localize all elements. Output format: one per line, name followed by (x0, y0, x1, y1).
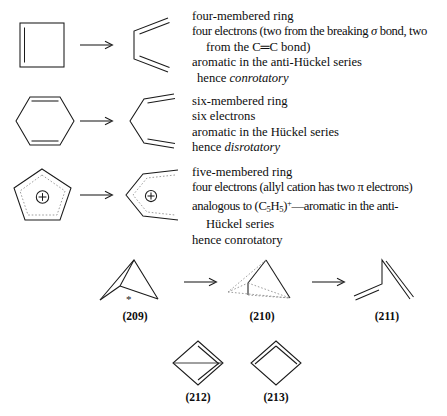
label-213: (213) (246, 391, 306, 404)
asterisk-mark-1: * (126, 293, 132, 305)
note-line: six electrons (192, 109, 339, 124)
structure-cyclopentenyl-cation (8, 164, 78, 226)
note-line: six-membered ring (192, 94, 339, 109)
label-212: (212) (168, 391, 228, 404)
note-line: four electrons (two from the breaking σ … (192, 24, 427, 39)
label-210: (210) (222, 310, 302, 323)
notes-four-membered: four-membered ring four electrons (two f… (192, 9, 427, 86)
structure-butadiene-1 (118, 14, 180, 76)
note-line: analogous to (C5H5)+—aromatic in the ant… (192, 196, 412, 217)
note-line: aromatic in the anti-Hückel series (192, 55, 427, 70)
structure-cyclobutene (8, 14, 78, 76)
note-line: hence conrotatory (192, 71, 427, 86)
structure-212 (168, 338, 228, 390)
structure-cyclohexadiene (8, 90, 78, 152)
scheme-arrow-1 (182, 256, 226, 308)
note-line: hence conrotatory (192, 233, 412, 248)
figure-page: four-membered ring four electrons (two f… (0, 0, 447, 416)
structure-210 (222, 256, 302, 308)
conrotatory-emphasis: conrotatory (230, 71, 289, 85)
disrotatory-emphasis: disrotatory (225, 140, 281, 154)
note-line: four-membered ring (192, 9, 427, 24)
structure-213 (246, 338, 306, 390)
notes-five-membered: five-membered ring four electrons (allyl… (192, 165, 412, 248)
note-line: hence disrotatory (192, 140, 339, 155)
note-line: aromatic in the Hückel series (192, 125, 339, 140)
structure-209: * (96, 256, 174, 308)
notes-six-membered: six-membered ring six electrons aromatic… (192, 94, 339, 156)
label-209: (209) (96, 310, 174, 323)
label-211: (211) (348, 310, 426, 323)
reaction-arrow-2 (78, 90, 120, 152)
structure-hexatriene (118, 90, 184, 152)
note-line: four electrons (allyl cation has two π e… (192, 180, 412, 195)
note-line: Hückel series (192, 217, 412, 232)
structure-211 (348, 256, 426, 308)
reaction-arrow-3 (78, 164, 120, 226)
note-line: five-membered ring (192, 165, 412, 180)
reaction-arrow-1 (78, 14, 120, 76)
note-line: from the C═C bond) (192, 40, 427, 55)
structure-pentadienyl-cation (118, 164, 184, 226)
